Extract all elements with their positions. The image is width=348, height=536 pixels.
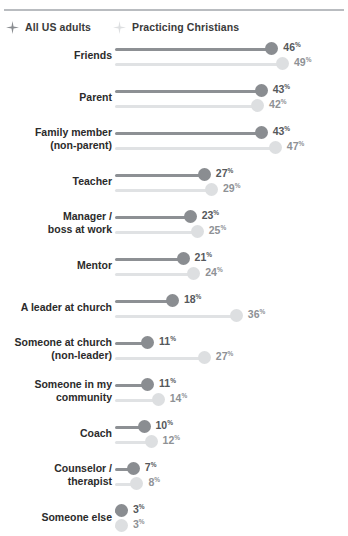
sparkle-icon — [6, 21, 19, 34]
lollipop-stem — [115, 357, 204, 360]
lollipop-dot — [187, 267, 200, 280]
row-plot: 11%14% — [115, 376, 348, 409]
lollipop-stem — [115, 63, 282, 66]
row-plot: 7%8% — [115, 460, 348, 493]
data-value-label: 29% — [223, 182, 240, 195]
row-label: Coach — [0, 427, 112, 440]
row-label: Someone in my community — [0, 378, 112, 403]
row-plot: 11%27% — [115, 334, 348, 367]
row-label: Mentor — [0, 259, 112, 272]
row-label: A leader at church — [0, 301, 112, 314]
data-value-label: 11% — [159, 335, 176, 348]
lollipop-dot — [269, 141, 282, 154]
lollipop-stem — [115, 216, 190, 219]
row-plot: 10%12% — [115, 418, 348, 451]
lollipop-stem — [115, 315, 236, 318]
lollipop-dot — [198, 168, 211, 181]
chart-row: Someone in my community11%14% — [0, 376, 348, 409]
lollipop-all-us-adults: 43% — [115, 126, 328, 140]
lollipop-dot — [255, 84, 268, 97]
lollipop-practicing-christians: 49% — [115, 57, 348, 71]
row-label: Manager / boss at work — [0, 210, 112, 235]
lollipop-dot — [177, 252, 190, 265]
chart-row: Mentor21%24% — [0, 250, 348, 283]
lollipop-dot — [115, 519, 128, 532]
data-value-label: 7% — [145, 461, 157, 474]
lollipop-dot — [184, 210, 197, 223]
data-value-label: 27% — [216, 167, 233, 180]
lollipop-dot — [141, 378, 154, 391]
lollipop-all-us-adults: 10% — [115, 420, 211, 434]
lollipop-all-us-adults: 43% — [115, 84, 328, 98]
lollipop-dot — [251, 99, 264, 112]
row-label: Family member (non-parent) — [0, 126, 112, 151]
row-plot: 46%49% — [115, 40, 348, 73]
data-value-label: 27% — [216, 350, 233, 363]
lollipop-practicing-christians: 29% — [115, 183, 278, 197]
legend-item-practicing-christians: Practicing Christians — [113, 21, 239, 34]
legend-item-all-us-adults: All US adults — [6, 21, 91, 34]
chart-row: Counselor / therapist7%8% — [0, 460, 348, 493]
chart-row: Parent43%42% — [0, 82, 348, 115]
lollipop-dot — [130, 477, 143, 490]
data-value-label: 43% — [273, 125, 290, 138]
lollipop-dot — [152, 393, 165, 406]
lollipop-dot — [138, 420, 151, 433]
data-value-label: 21% — [195, 251, 212, 264]
chart-row: Someone else3%3% — [0, 502, 348, 535]
data-value-label: 23% — [202, 209, 219, 222]
chart-row: Someone at church (non-leader)11%27% — [0, 334, 348, 367]
data-value-label: 8% — [148, 476, 160, 489]
data-value-label: 11% — [159, 377, 176, 390]
lollipop-dot — [191, 225, 204, 238]
data-value-label: 25% — [209, 224, 226, 237]
lollipop-all-us-adults: 21% — [115, 252, 250, 266]
chart-row: Teacher27%29% — [0, 166, 348, 199]
lollipop-stem — [115, 174, 204, 177]
data-value-label: 42% — [269, 98, 286, 111]
row-plot: 43%47% — [115, 124, 348, 157]
lollipop-all-us-adults: 18% — [115, 294, 239, 308]
lollipop-stem — [115, 189, 211, 192]
row-plot: 18%36% — [115, 292, 348, 325]
lollipop-practicing-christians: 24% — [115, 267, 260, 281]
row-label: Someone else — [0, 511, 112, 524]
lollipop-all-us-adults: 11% — [115, 336, 214, 350]
lollipop-dot — [255, 126, 268, 139]
data-value-label: 14% — [170, 392, 187, 405]
data-value-label: 3% — [133, 503, 145, 516]
data-value-label: 36% — [248, 308, 265, 321]
row-label: Teacher — [0, 175, 112, 188]
lollipop-dot — [276, 57, 289, 70]
data-value-label: 43% — [273, 83, 290, 96]
lollipop-all-us-adults: 3% — [115, 504, 186, 518]
legend-label: All US adults — [25, 21, 91, 33]
chart-rows: Friends46%49%Parent43%42%Family member (… — [0, 40, 348, 536]
row-plot: 23%25% — [115, 208, 348, 241]
lollipop-stem — [115, 300, 172, 303]
lollipop-dot — [115, 504, 128, 517]
lollipop-practicing-christians: 12% — [115, 435, 218, 449]
lollipop-dot — [127, 462, 140, 475]
data-value-label: 12% — [163, 434, 180, 447]
lollipop-practicing-christians: 36% — [115, 309, 303, 323]
row-label: Friends — [0, 49, 112, 62]
chart-legend: All US adults Practicing Christians — [6, 18, 261, 36]
chart-row: Coach10%12% — [0, 418, 348, 451]
data-value-label: 10% — [156, 419, 173, 432]
lollipop-all-us-adults: 7% — [115, 462, 200, 476]
row-plot: 43%42% — [115, 82, 348, 115]
sparkle-icon — [113, 21, 126, 34]
chart-row: Family member (non-parent)43%47% — [0, 124, 348, 157]
lollipop-dot — [205, 183, 218, 196]
header-divider — [4, 9, 344, 11]
row-plot: 27%29% — [115, 166, 348, 199]
lollipop-stem — [115, 48, 272, 51]
legend-label: Practicing Christians — [132, 21, 239, 33]
lollipop-practicing-christians: 25% — [115, 225, 264, 239]
lollipop-dot — [145, 435, 158, 448]
row-label: Counselor / therapist — [0, 462, 112, 487]
lollipop-stem — [115, 90, 261, 93]
lollipop-all-us-adults: 11% — [115, 378, 214, 392]
